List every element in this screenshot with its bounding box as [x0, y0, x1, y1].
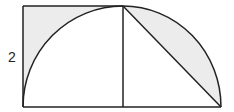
side-length-label: 2 — [8, 49, 16, 65]
shaded-region-left — [23, 6, 123, 107]
geometry-diagram: 2 — [0, 0, 234, 112]
